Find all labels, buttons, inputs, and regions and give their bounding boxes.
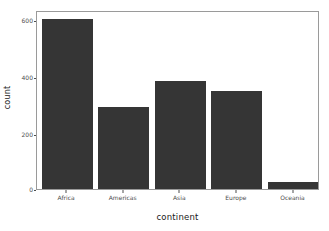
x-tick-mark-oceania	[292, 190, 293, 193]
x-tick-mark-asia	[179, 190, 180, 193]
bar-europe	[211, 91, 262, 189]
bar-asia	[155, 81, 206, 189]
x-axis-title: continent	[36, 212, 319, 222]
x-tick-label-oceania: Oceania	[263, 194, 323, 201]
y-tick-0: 0	[29, 185, 36, 195]
x-tick-label-africa: Africa	[36, 194, 96, 201]
x-axis-ticks: Africa Americas Asia Europe Oceania	[36, 190, 319, 212]
bar-chart: count 600 400 200 0 Africa	[0, 0, 329, 231]
x-tick-mark-africa	[66, 190, 67, 193]
x-tick-label-americas: Americas	[93, 194, 153, 201]
x-tick-mark-europe	[235, 190, 236, 193]
y-tick-200: 200	[22, 130, 36, 140]
x-tick-mark-americas	[122, 190, 123, 193]
y-axis-ticks: 600 400 200 0	[0, 0, 36, 231]
y-tick-600: 600	[22, 16, 36, 26]
bar-oceania	[268, 182, 319, 189]
x-tick-label-europe: Europe	[206, 194, 266, 201]
x-tick-label-asia: Asia	[149, 194, 209, 201]
plot-panel	[36, 11, 319, 190]
bar-africa	[42, 19, 93, 189]
bar-americas	[98, 107, 149, 189]
y-tick-400: 400	[22, 73, 36, 83]
